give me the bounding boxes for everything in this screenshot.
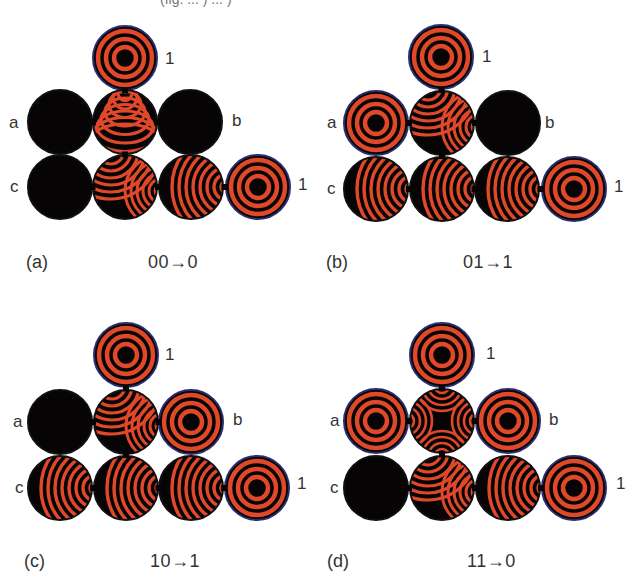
channel-c-bottom_mid bbox=[90, 184, 96, 190]
cell-out-target bbox=[225, 456, 289, 520]
channel-mid-bottom_mid bbox=[122, 152, 128, 158]
right-output-label: 1 bbox=[297, 475, 306, 492]
cell-out-target bbox=[226, 155, 290, 219]
cell-top-target bbox=[93, 26, 157, 90]
top-output-label: 1 bbox=[482, 48, 491, 65]
channel-bottom_mid-bottom_right bbox=[472, 186, 478, 192]
channel-top-mid bbox=[122, 87, 128, 93]
panel-b-cells bbox=[316, 0, 632, 289]
channel-mid-bottom_mid bbox=[439, 452, 445, 458]
panel-b: 1 a b c 1 (b) 01→1 bbox=[316, 0, 632, 289]
cell-c-dark bbox=[28, 155, 92, 219]
channel-bottom_mid-bottom_right bbox=[472, 485, 478, 491]
panel-letter: (c) bbox=[24, 551, 45, 572]
cell-b-target bbox=[476, 389, 540, 453]
channel-mid-b bbox=[156, 419, 162, 425]
right-output-label: 1 bbox=[616, 475, 625, 492]
cell-out-target bbox=[542, 157, 606, 221]
input-b-label: b bbox=[545, 114, 554, 131]
cell-top-target bbox=[410, 323, 474, 387]
truth-table-entry: 11→0 bbox=[467, 551, 516, 572]
channel-mid-b bbox=[472, 120, 478, 126]
channel-top-mid bbox=[439, 87, 445, 93]
panel-letter: (a) bbox=[26, 252, 48, 273]
channel-c-bottom_mid bbox=[406, 485, 412, 491]
cell-top-target bbox=[94, 323, 158, 387]
top-output-label: 1 bbox=[486, 345, 495, 362]
channel-bottom_right-out bbox=[222, 184, 228, 190]
input-a-label: a bbox=[9, 114, 18, 131]
channel-bottom_mid-bottom_right bbox=[155, 184, 161, 190]
panel-c-cells bbox=[0, 289, 316, 578]
node-c-label: c bbox=[10, 178, 19, 195]
cell-b-dark bbox=[158, 90, 222, 154]
panel-d-cells bbox=[316, 289, 632, 578]
right-output-label: 1 bbox=[614, 178, 623, 195]
logic-gate-figure: (fig. ... ) ... ) 1 a b c 1 (a) 00→0 1 a… bbox=[0, 0, 633, 578]
node-c-label: c bbox=[15, 479, 24, 496]
right-output-label: 1 bbox=[298, 176, 307, 193]
cell-a-target bbox=[344, 91, 408, 155]
panel-letter: (d) bbox=[327, 551, 349, 572]
cell-b-dark bbox=[476, 91, 540, 155]
node-c-label: c bbox=[330, 479, 339, 496]
top-output-label: 1 bbox=[165, 346, 174, 363]
cell-b-target bbox=[159, 390, 223, 454]
truth-table-entry: 10→1 bbox=[150, 551, 200, 572]
channel-bottom_right-out bbox=[538, 186, 544, 192]
channel-mid-b bbox=[472, 418, 478, 424]
channel-a-mid bbox=[90, 419, 96, 425]
cell-a-target bbox=[344, 389, 408, 453]
channel-bottom_mid-bottom_right bbox=[156, 485, 162, 491]
truth-table-entry: 01→1 bbox=[463, 252, 513, 273]
channel-mid-bottom_mid bbox=[123, 452, 129, 458]
cell-top-target bbox=[409, 25, 473, 89]
top-output-label: 1 bbox=[165, 50, 174, 67]
channel-bottom_right-out bbox=[221, 485, 227, 491]
channel-a-mid bbox=[406, 120, 412, 126]
channel-c-bottom_mid bbox=[90, 485, 96, 491]
input-b-label: b bbox=[233, 411, 242, 428]
cell-c-dark bbox=[344, 456, 408, 520]
channel-top-mid bbox=[439, 385, 445, 391]
input-a-label: a bbox=[13, 413, 22, 430]
input-a-label: a bbox=[330, 412, 339, 429]
channel-mid-b bbox=[155, 119, 161, 125]
channel-mid-bottom_mid bbox=[439, 153, 445, 159]
panel-a-cells bbox=[0, 0, 316, 289]
panel-a: 1 a b c 1 (a) 00→0 bbox=[0, 0, 316, 289]
panel-d: 1 a b c 1 (d) 11→0 bbox=[316, 289, 632, 578]
panel-letter: (b) bbox=[326, 252, 348, 273]
channel-top-mid bbox=[123, 386, 129, 392]
cell-a-dark bbox=[28, 390, 92, 454]
cell-a-dark bbox=[28, 90, 92, 154]
truth-table-entry: 00→0 bbox=[148, 252, 198, 273]
input-a-label: a bbox=[327, 114, 336, 131]
input-b-label: b bbox=[232, 112, 241, 129]
input-b-label: b bbox=[549, 411, 558, 428]
cell-out-target bbox=[542, 456, 606, 520]
channel-a-mid bbox=[90, 119, 96, 125]
channel-a-mid bbox=[406, 418, 412, 424]
node-c-label: c bbox=[327, 180, 336, 197]
panel-c: 1 a b c 1 (c) 10→1 bbox=[0, 289, 316, 578]
channel-bottom_right-out bbox=[538, 485, 544, 491]
channel-c-bottom_mid bbox=[406, 186, 412, 192]
